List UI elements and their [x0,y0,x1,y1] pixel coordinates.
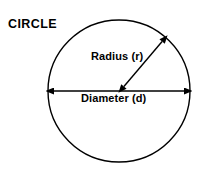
radius-double-arrow [124,42,162,87]
page-title: CIRCLE [8,18,57,31]
radius-label: Radius (r) [91,51,143,62]
diameter-label: Diameter (d) [81,93,146,104]
circle-diagram: CIRCLE Radius (r) Diameter (d) [0,0,209,170]
